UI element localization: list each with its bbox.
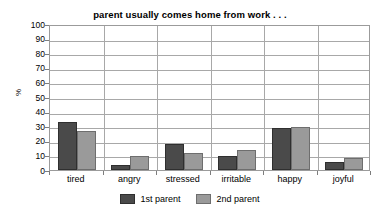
bar (165, 144, 184, 170)
y-axis-tick-label: 70 (21, 64, 45, 73)
bar-group (50, 26, 104, 170)
y-axis-tick-label: 40 (21, 108, 45, 117)
legend-swatch-icon (120, 194, 135, 204)
bar (237, 150, 256, 170)
y-axis-tick-labels: 1009080706050403020100 (19, 25, 45, 171)
x-axis-tick-label: angry (103, 174, 157, 184)
x-axis-tick-label: joyful (317, 174, 371, 184)
bar-group (318, 26, 372, 170)
legend-swatch-icon (196, 194, 211, 204)
y-axis-tick-label: 100 (21, 21, 45, 30)
x-axis-tick-mark (210, 171, 211, 175)
bar-chart: parent usually comes home from work . . … (0, 0, 380, 219)
legend-label: 1st parent (140, 194, 180, 204)
y-axis-tick-label: 90 (21, 35, 45, 44)
x-axis-tick-mark (370, 171, 371, 175)
y-axis-tick-label: 20 (21, 137, 45, 146)
bar (130, 156, 149, 170)
chart-legend: 1st parent2nd parent (0, 194, 380, 204)
bar-group (211, 26, 265, 170)
bar-group (157, 26, 211, 170)
bar (58, 122, 77, 170)
x-axis-tick-label: tired (49, 174, 103, 184)
x-axis-tick-mark (49, 171, 50, 175)
bar (272, 128, 291, 170)
y-axis-tick-label: 30 (21, 123, 45, 132)
x-axis-tick-label: stressed (156, 174, 210, 184)
x-axis-tick-mark (263, 171, 264, 175)
bar (291, 127, 310, 170)
bar-group (264, 26, 318, 170)
y-axis-tick-label: 80 (21, 50, 45, 59)
y-axis-tick-label: 60 (21, 79, 45, 88)
bar (218, 156, 237, 170)
x-axis-tick-labels: tiredangrystressedirritablehappyjoyful (49, 174, 370, 188)
bar (111, 165, 130, 170)
y-axis-tick-label: 0 (21, 167, 45, 176)
bar (325, 162, 344, 170)
x-axis-tick-mark (317, 171, 318, 175)
y-axis-tick-label: 50 (21, 94, 45, 103)
bar (184, 153, 203, 170)
chart-title: parent usually comes home from work . . … (0, 9, 380, 20)
legend-label: 2nd parent (216, 194, 259, 204)
x-axis-tick-mark (103, 171, 104, 175)
legend-entry: 2nd parent (196, 194, 259, 204)
bar (344, 158, 363, 170)
x-axis-tick-label: happy (263, 174, 317, 184)
y-axis-tick-label: 10 (21, 152, 45, 161)
x-axis-tick-label: irritable (210, 174, 264, 184)
plot-area (49, 25, 370, 171)
legend-entry: 1st parent (120, 194, 180, 204)
x-axis-tick-mark (156, 171, 157, 175)
bar (77, 131, 96, 170)
bar-group (104, 26, 158, 170)
